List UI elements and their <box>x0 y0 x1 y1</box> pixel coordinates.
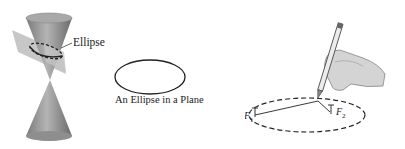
string-to-f2 <box>318 101 330 112</box>
string-construction-figure: F1 F2 <box>245 0 405 149</box>
ellipse-label: Ellipse <box>73 36 105 48</box>
plane-ellipse-caption: An Ellipse in a Plane <box>115 94 204 105</box>
plane-ellipse-figure <box>105 0 235 149</box>
plane-ellipse <box>115 60 185 94</box>
focus-f2-label: F2 <box>335 106 346 120</box>
string-construction-panel: F1 F2 <box>245 0 405 149</box>
double-cone-figure <box>0 0 110 149</box>
double-cone-panel <box>0 0 110 149</box>
ellipse-plane-panel <box>105 0 235 149</box>
pin-f2-icon <box>328 105 334 114</box>
focus-f1-label: F1 <box>245 110 254 124</box>
